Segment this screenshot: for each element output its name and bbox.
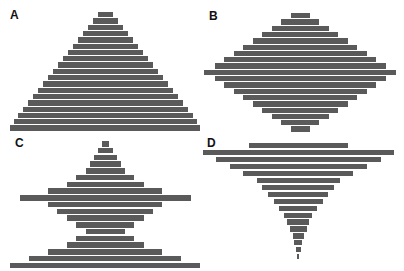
bar: [297, 254, 299, 259]
bar: [68, 50, 143, 55]
bar: [73, 44, 138, 49]
bar: [20, 195, 191, 201]
bar: [63, 56, 148, 61]
bar: [243, 95, 357, 100]
panel-label-b: B: [209, 9, 218, 23]
bar: [272, 114, 329, 119]
bar: [253, 38, 348, 43]
bar: [57, 209, 153, 215]
bar: [48, 75, 163, 80]
bar: [262, 185, 334, 190]
bar: [262, 108, 338, 113]
bar: [215, 63, 386, 68]
bar: [203, 150, 394, 155]
bar: [83, 31, 128, 36]
bar: [224, 57, 376, 62]
bar: [10, 263, 200, 269]
bar: [14, 119, 197, 124]
bar: [98, 12, 113, 17]
bar: [281, 120, 319, 125]
bar: [67, 215, 144, 221]
bar: [38, 88, 173, 93]
bar: [294, 240, 302, 245]
panel-label-a: A: [10, 8, 19, 22]
bar: [53, 69, 158, 74]
bar: [48, 249, 162, 255]
bar: [23, 107, 188, 112]
bar: [76, 175, 134, 181]
bar: [243, 45, 357, 50]
bar: [296, 247, 301, 252]
bar: [257, 178, 340, 183]
bar: [58, 62, 153, 67]
bar: [262, 32, 338, 37]
bar: [78, 37, 133, 42]
bar: [216, 157, 381, 162]
bar: [234, 51, 367, 56]
bar: [281, 19, 319, 24]
bar: [253, 101, 348, 106]
bar: [249, 143, 348, 148]
bar: [76, 236, 134, 242]
bar: [86, 168, 125, 174]
bar: [234, 89, 367, 94]
bar: [243, 171, 353, 176]
panel-label-d: D: [207, 136, 216, 150]
bar: [290, 226, 307, 231]
bar: [33, 94, 178, 99]
bar: [291, 126, 310, 131]
bar: [90, 161, 121, 167]
bar: [10, 125, 200, 130]
panel-label-c: C: [15, 136, 24, 150]
bar: [102, 141, 109, 147]
bar: [98, 148, 113, 154]
bar: [272, 26, 329, 31]
bar: [28, 100, 183, 105]
bar: [268, 192, 328, 197]
bar: [43, 81, 168, 86]
bar: [67, 182, 144, 188]
bar: [291, 13, 310, 18]
bar: [274, 199, 323, 204]
bar: [204, 70, 396, 75]
bar: [29, 256, 181, 262]
bar: [293, 233, 304, 238]
bar: [230, 164, 367, 169]
bar: [279, 206, 317, 211]
bar: [284, 213, 312, 218]
bar: [86, 229, 125, 235]
bar: [215, 76, 386, 81]
bar: [48, 188, 162, 194]
bar: [224, 82, 376, 87]
bar: [88, 25, 123, 30]
bar: [93, 18, 118, 23]
bar: [18, 113, 193, 118]
bar: [76, 222, 134, 228]
bar: [67, 242, 144, 248]
bar: [287, 219, 309, 224]
bar: [94, 155, 117, 161]
bar: [48, 202, 162, 208]
